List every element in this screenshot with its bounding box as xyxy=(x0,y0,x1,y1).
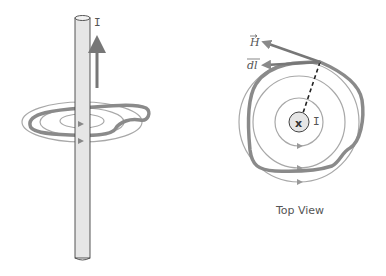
current-label-top: I xyxy=(313,115,320,128)
field-arrow-icon xyxy=(297,143,303,149)
h-vector-arrow-icon xyxy=(266,43,320,62)
current-into-page-icon: x xyxy=(295,117,302,130)
top-view-caption: Top View xyxy=(250,204,350,217)
ampere-law-diagram: I x I H dl xyxy=(0,0,386,276)
side-view: I xyxy=(22,16,149,261)
current-label-side: I xyxy=(94,16,101,29)
h-vector-label: H xyxy=(249,36,260,49)
field-arrow-icon xyxy=(297,179,303,185)
dl-vector-label: dl xyxy=(247,59,258,72)
wire xyxy=(75,16,90,261)
dl-vector-arrow-icon xyxy=(266,62,320,65)
top-view: x I H dl xyxy=(239,35,363,186)
radius-line xyxy=(303,62,320,113)
